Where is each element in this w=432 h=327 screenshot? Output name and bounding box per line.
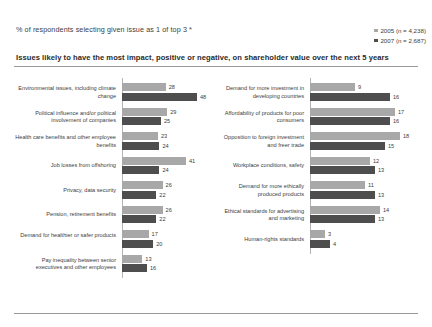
bar-row: 13	[310, 215, 432, 223]
bar-value: 18	[403, 133, 409, 139]
bar-value: 22	[159, 192, 165, 198]
chart-group: Opposition to foreign investment and fre…	[218, 132, 426, 157]
bar-2005	[310, 83, 355, 91]
category-label: Political influence and/or political inv…	[14, 110, 116, 125]
bar-row: 4	[310, 240, 432, 248]
chart-group: Demand for more investment in developing…	[218, 83, 426, 108]
bar-value: 3	[328, 231, 331, 237]
bar-row: 13	[310, 191, 432, 199]
bar-row: 28	[122, 83, 230, 91]
bar-2005	[310, 230, 325, 238]
bar-2005	[122, 181, 163, 189]
chart-group: Job losses from offshoring4124	[14, 157, 214, 182]
chart-group: Demand for healthier or safer products17…	[14, 230, 214, 255]
bar-2007	[310, 93, 390, 101]
bar-row: 22	[122, 215, 230, 223]
bar-row: 17	[310, 108, 432, 116]
bar-row: 48	[122, 93, 230, 101]
bar-value: 48	[200, 94, 206, 100]
category-label: Privacy, data security	[14, 187, 116, 194]
bar-2007	[122, 240, 153, 248]
category-label: Pension, retirement benefits	[14, 211, 116, 218]
bar-row: 20	[122, 240, 230, 248]
bar-2005	[310, 206, 380, 214]
category-label: Demand for healthier or safer products	[14, 232, 116, 239]
bar-2007	[310, 142, 385, 150]
bar-row: 13	[122, 255, 230, 263]
bar-2005	[310, 132, 400, 140]
bar-value: 25	[164, 118, 170, 124]
bar-value: 16	[393, 94, 399, 100]
category-label: Affordability of products for poor consu…	[218, 110, 304, 125]
bar-value: 13	[145, 256, 151, 262]
chart-group: Pay inequality between senior executives…	[14, 255, 214, 280]
bar-row: 41	[122, 157, 230, 165]
bar-row: 9	[310, 83, 432, 91]
chart-group: Human-rights standards34	[218, 230, 426, 255]
bar-value: 20	[156, 241, 162, 247]
bar-value: 23	[161, 133, 167, 139]
category-label: Ethical standards for advertising and ma…	[218, 208, 304, 223]
bar-value: 41	[189, 158, 195, 164]
page-title: % of respondents selecting given issue a…	[16, 25, 192, 34]
legend-swatch-2005	[374, 29, 378, 33]
chart-group: Health care benefits and other employee …	[14, 132, 214, 157]
bar-row: 16	[122, 264, 230, 272]
bar-value: 14	[383, 207, 389, 213]
bar-2007	[122, 166, 159, 174]
bar-value: 26	[166, 182, 172, 188]
bar-2007	[122, 191, 156, 199]
bar-value: 22	[159, 216, 165, 222]
bar-row: 22	[122, 191, 230, 199]
bar-value: 13	[378, 192, 384, 198]
bar-row: 24	[122, 166, 230, 174]
category-label: Opposition to foreign investment and fre…	[218, 134, 304, 149]
bar-2005	[122, 108, 167, 116]
bar-value: 26	[166, 207, 172, 213]
legend-label-2005: 2005 (n = 4,238)	[380, 27, 426, 34]
bar-2007	[122, 93, 197, 101]
legend: 2005 (n = 4,238) 2007 (n = 2,687)	[374, 27, 426, 47]
bar-row: 17	[122, 230, 230, 238]
divider-bottom	[14, 313, 418, 314]
chart-subtitle: Issues likely to have the most impact, p…	[16, 53, 389, 62]
bar-value: 11	[368, 182, 374, 188]
bar-value: 16	[393, 118, 399, 124]
bar-2005	[122, 206, 163, 214]
bar-2007	[310, 191, 375, 199]
chart-group: Privacy, data security2622	[14, 181, 214, 206]
legend-label-2007: 2007 (n = 2,687)	[380, 37, 426, 44]
bar-2007	[122, 117, 161, 125]
bar-2005	[310, 181, 365, 189]
bar-value: 4	[333, 241, 336, 247]
bar-row: 3	[310, 230, 432, 238]
bar-2007	[310, 166, 375, 174]
legend-item-2007: 2007 (n = 2,687)	[374, 37, 426, 44]
category-label: Workplace conditions, safety	[218, 162, 304, 169]
bar-2007	[310, 240, 330, 248]
chart-group: Environmental issues, including climate …	[14, 83, 214, 108]
bar-2007	[122, 264, 147, 272]
bar-row: 26	[122, 181, 230, 189]
chart-group: Political influence and/or political inv…	[14, 108, 214, 133]
category-label: Demand for more ethically produced produ…	[218, 183, 304, 198]
legend-item-2005: 2005 (n = 4,238)	[374, 27, 426, 34]
bar-row: 24	[122, 142, 230, 150]
category-label: Pay inequality between senior executives…	[14, 257, 116, 272]
legend-swatch-2007	[374, 39, 378, 43]
bar-value: 24	[162, 167, 168, 173]
chart-group: Workplace conditions, safety1213	[218, 157, 426, 182]
bar-value: 16	[150, 265, 156, 271]
chart-group: Pension, retirement benefits2622	[14, 206, 214, 231]
bar-row: 23	[122, 132, 230, 140]
bar-value: 28	[169, 84, 175, 90]
bar-row: 13	[310, 166, 432, 174]
category-label: Human-rights standards	[218, 236, 304, 243]
bar-row: 26	[122, 206, 230, 214]
bar-2005	[122, 132, 158, 140]
bar-row: 25	[122, 117, 230, 125]
bar-2005	[122, 230, 149, 238]
bar-value: 24	[162, 143, 168, 149]
bar-value: 17	[152, 231, 158, 237]
bar-row: 15	[310, 142, 432, 150]
